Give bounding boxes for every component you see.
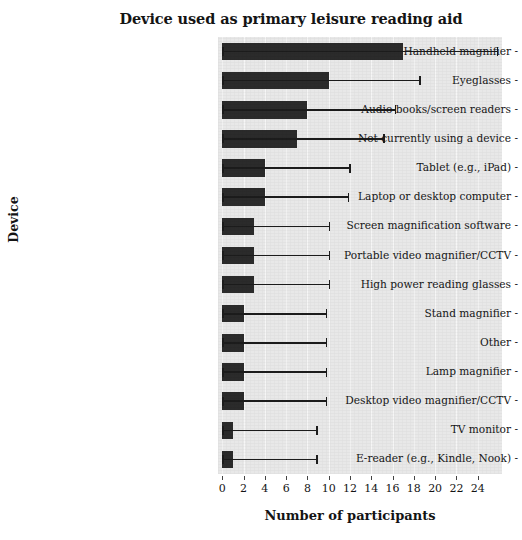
x-tick-mark xyxy=(414,476,415,480)
x-tick-label: 24 xyxy=(466,482,490,495)
error-bar-cap xyxy=(222,426,224,435)
y-tick-label: Screen magnification software - xyxy=(306,219,522,231)
chart-figure: Device used as primary leisure reading a… xyxy=(0,0,522,540)
y-tick-label: High power reading glasses - xyxy=(306,278,522,290)
error-bar-cap xyxy=(222,134,224,143)
y-tick-label: Other - xyxy=(306,336,522,348)
x-tick-mark xyxy=(286,476,287,480)
y-tick-label: Not currently using a device - xyxy=(306,132,522,144)
error-bar-cap xyxy=(222,455,224,464)
x-tick-mark xyxy=(478,476,479,480)
y-tick-label: Audio books/screen readers - xyxy=(306,103,522,115)
error-bar-cap xyxy=(222,193,224,202)
x-tick-mark xyxy=(222,476,223,480)
error-bar-cap xyxy=(222,309,224,318)
y-tick-label: Portable video magnifier/CCTV - xyxy=(306,249,522,261)
x-tick-mark xyxy=(307,476,308,480)
error-bar-cap xyxy=(222,397,224,406)
x-tick-mark xyxy=(244,476,245,480)
error-bar-line xyxy=(222,459,316,461)
y-tick-label: Tablet (e.g., iPad) - xyxy=(306,161,522,173)
y-tick-label: Laptop or desktop computer - xyxy=(306,190,522,202)
error-bar-cap xyxy=(222,222,224,231)
y-tick-label: TV monitor - xyxy=(306,423,522,435)
x-tick-mark xyxy=(350,476,351,480)
y-axis-label: Device xyxy=(6,190,21,250)
error-bar-cap xyxy=(222,368,224,377)
error-bar-cap xyxy=(222,76,224,85)
x-axis-label: Number of participants xyxy=(222,508,478,523)
y-tick-label: Stand magnifier - xyxy=(306,307,522,319)
error-bar-cap xyxy=(222,338,224,347)
error-bar-cap xyxy=(222,105,224,114)
x-tick-mark xyxy=(435,476,436,480)
y-tick-label: Lamp magnifier - xyxy=(306,365,522,377)
x-tick-mark xyxy=(371,476,372,480)
y-tick-label: Desktop video magnifier/CCTV - xyxy=(306,394,522,406)
error-bar-cap xyxy=(222,47,224,56)
y-tick-label: Handheld magnifier - xyxy=(306,45,522,57)
chart-title: Device used as primary leisure reading a… xyxy=(0,10,522,27)
error-bar-line xyxy=(222,430,316,432)
x-tick-mark xyxy=(329,476,330,480)
y-tick-label: Eyeglasses - xyxy=(306,74,522,86)
x-tick-mark xyxy=(393,476,394,480)
y-tick-label: E-reader (e.g., Kindle, Nook) - xyxy=(306,452,522,464)
x-tick-mark xyxy=(456,476,457,480)
error-bar-cap xyxy=(222,251,224,260)
error-bar-cap xyxy=(222,280,224,289)
error-bar-cap xyxy=(222,164,224,173)
x-tick-mark xyxy=(265,476,266,480)
